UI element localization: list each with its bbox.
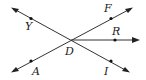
arrowhead-lower-right-icon <box>122 67 130 73</box>
point-f <box>109 17 112 20</box>
label-i: I <box>103 65 109 78</box>
label-f: F <box>103 2 112 15</box>
arrowhead-lower-left-icon <box>11 67 19 73</box>
label-a: A <box>31 65 40 78</box>
arrowhead-right-icon <box>132 37 140 43</box>
arrowhead-upper-right-icon <box>125 8 133 14</box>
point-r <box>113 38 116 41</box>
geometry-diagram: Y F R D A I <box>0 0 146 80</box>
label-y: Y <box>25 20 34 33</box>
arrowhead-upper-left-icon <box>11 8 19 14</box>
label-r: R <box>111 25 120 38</box>
point-i <box>109 59 112 62</box>
point-a <box>29 59 32 62</box>
label-d: D <box>64 45 74 58</box>
